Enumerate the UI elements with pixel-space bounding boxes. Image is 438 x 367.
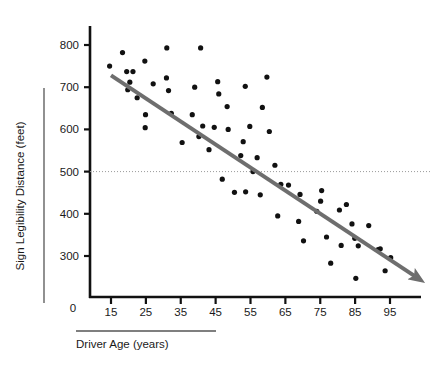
y-axis-title: Sign Legibility Distance (feet) <box>14 121 26 270</box>
scatter-point <box>127 80 132 85</box>
scatter-point <box>130 69 135 74</box>
scatter-point <box>324 234 329 239</box>
x-tick-label: 55 <box>244 306 257 318</box>
x-tick-label: 35 <box>174 306 187 318</box>
scatter-point <box>225 104 230 109</box>
scatter-point <box>267 129 272 134</box>
scatter-point <box>120 50 125 55</box>
scatter-point <box>143 112 148 117</box>
scatter-point <box>286 183 291 188</box>
scatter-point <box>275 213 280 218</box>
scatter-point <box>142 58 147 63</box>
scatter-chart-figure: 300400500600700800 152535455565758595 0 … <box>0 0 438 367</box>
scatter-point <box>356 243 361 248</box>
y-tick-label: 300 <box>60 250 79 262</box>
scatter-point <box>264 74 269 79</box>
y-tick-label: 400 <box>60 208 79 220</box>
chart-canvas: 300400500600700800 152535455565758595 0 … <box>0 0 438 367</box>
y-tick-label: 700 <box>60 81 79 93</box>
scatter-point <box>200 123 205 128</box>
scatter-point <box>318 199 323 204</box>
scatter-point <box>243 189 248 194</box>
y-tick-label: 600 <box>60 123 79 135</box>
scatter-point <box>366 223 371 228</box>
scatter-point <box>349 221 354 226</box>
scatter-point <box>328 261 333 266</box>
scatter-point <box>301 238 306 243</box>
scatter-point <box>226 127 231 132</box>
scatter-point <box>243 84 248 89</box>
origin-label: 0 <box>70 302 76 314</box>
scatter-point <box>192 85 197 90</box>
x-tick-label: 15 <box>105 306 118 318</box>
scatter-point <box>232 190 237 195</box>
x-tick-label: 85 <box>349 306 362 318</box>
x-tick-label: 75 <box>314 306 327 318</box>
scatter-point <box>241 139 246 144</box>
scatter-point <box>215 79 220 84</box>
scatter-point <box>143 125 148 130</box>
x-tick-label: 45 <box>209 306 222 318</box>
x-tick-label: 25 <box>139 306 152 318</box>
scatter-point <box>124 69 129 74</box>
scatter-point <box>206 147 211 152</box>
scatter-point <box>319 188 324 193</box>
scatter-point <box>296 219 301 224</box>
scatter-point <box>247 124 252 129</box>
y-tick-label: 500 <box>60 166 79 178</box>
scatter-point <box>166 88 171 93</box>
x-axis-title: Driver Age (years) <box>76 338 169 350</box>
scatter-point <box>164 45 169 50</box>
scatter-point <box>164 75 169 80</box>
scatter-point <box>353 276 358 281</box>
scatter-point <box>297 192 302 197</box>
scatter-point <box>344 202 349 207</box>
scatter-point <box>337 207 342 212</box>
x-tick-label: 95 <box>384 306 397 318</box>
scatter-point <box>190 112 195 117</box>
scatter-point <box>107 64 112 69</box>
scatter-point <box>255 155 260 160</box>
scatter-point <box>198 45 203 50</box>
scatter-point <box>220 177 225 182</box>
scatter-point <box>258 192 263 197</box>
scatter-point <box>151 81 156 86</box>
scatter-point <box>339 243 344 248</box>
scatter-point <box>180 140 185 145</box>
scatter-point <box>238 153 243 158</box>
scatter-point <box>383 268 388 273</box>
x-tick-label: 65 <box>279 306 292 318</box>
scatter-point <box>216 91 221 96</box>
scatter-point <box>272 163 277 168</box>
y-tick-label: 800 <box>60 39 79 51</box>
scatter-point <box>212 125 217 130</box>
scatter-point <box>260 105 265 110</box>
